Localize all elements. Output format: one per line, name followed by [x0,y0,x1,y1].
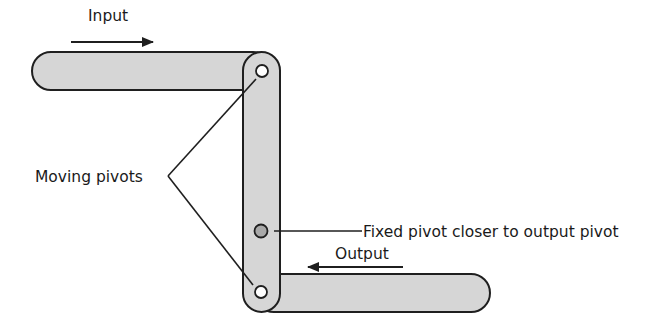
input-link [32,52,272,90]
fixed-pivot-icon [255,225,268,238]
lever-link [243,52,280,312]
input-label: Input [88,7,128,25]
input-indicator: Input [71,7,153,42]
linkage-diagram: Input Moving pivots Fixed pivot closer t… [0,0,669,323]
output-indicator: Output [308,245,403,267]
bottom-moving-pivot-icon [255,286,267,298]
moving-pivots-label: Moving pivots [35,168,143,186]
top-moving-pivot-icon [256,65,268,77]
output-link [255,274,490,312]
fixed-pivot-label: Fixed pivot closer to output pivot [363,223,619,241]
output-label: Output [335,245,389,263]
